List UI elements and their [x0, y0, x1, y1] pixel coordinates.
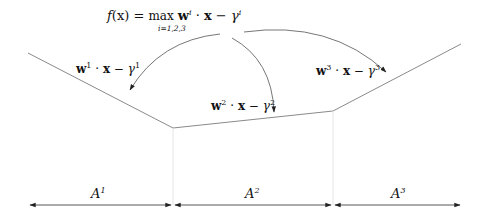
- piecewise-function-line: [28, 44, 461, 128]
- max-subscript: i=1,2,3: [158, 24, 186, 33]
- region-label-1: A1: [90, 186, 105, 201]
- piece-label-1: w1 · x − γ1: [75, 61, 140, 76]
- piecewise-linear-diagram: f(x) = maxwi · x − γi i=1,2,3 w1 · x − γ…: [0, 0, 485, 218]
- region-label-2: A2: [244, 186, 259, 201]
- region-label-3: A3: [390, 186, 405, 201]
- piece-label-3: w3 · x − γ3: [315, 63, 380, 78]
- piece-label-2: w2 · x − γ2: [210, 98, 275, 113]
- formula-title: f(x) = maxwi · x − γi: [106, 8, 242, 23]
- arrow-to-piece-1: [130, 34, 220, 90]
